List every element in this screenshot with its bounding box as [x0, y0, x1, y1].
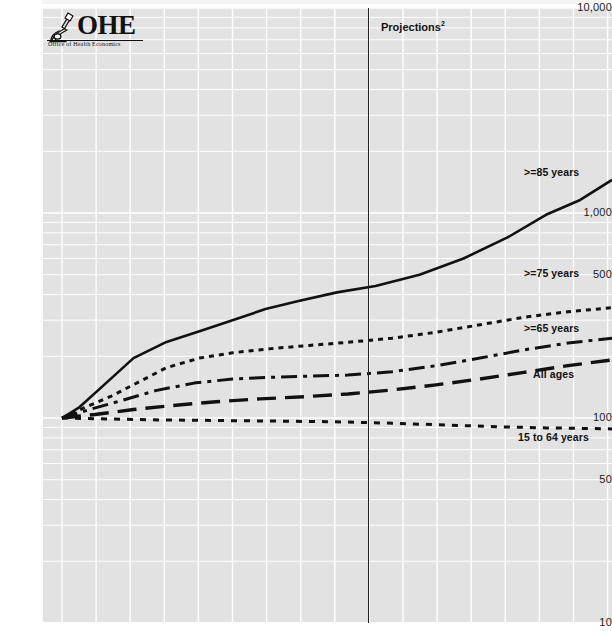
series-label-15-to-64-years: 15 to 64 years [518, 431, 589, 443]
gridlines [43, 8, 612, 623]
series-line-all-ages [62, 360, 612, 418]
projections-annotation: Projections2 [381, 20, 445, 33]
series-label--75-years: >=75 years [524, 267, 579, 279]
projection-divider-line [368, 8, 369, 623]
series-lines [43, 8, 612, 623]
y-axis-tick-label: 10 [571, 617, 612, 628]
y-axis-tick-label: 10,000 [571, 2, 612, 13]
series-line--65-years [62, 338, 612, 418]
ohe-wordmark: OHE [77, 12, 136, 39]
y-axis-tick-label: 100 [571, 412, 612, 423]
chart-root: 10,0001,0005001005010 Projections2 >=85 … [0, 0, 612, 631]
series-label--65-years: >=65 years [524, 322, 579, 334]
plot-area [43, 8, 612, 623]
y-axis-tick-label: 50 [571, 474, 612, 485]
series-line-15-to-64-years [62, 418, 612, 429]
y-axis-tick-label: 1,000 [571, 207, 612, 218]
projections-text: Projections [381, 21, 441, 33]
series-label-all-ages: All ages [533, 368, 574, 380]
ohe-logo: OHE Office of Health Economics [46, 11, 144, 51]
series-label--85-years: >=85 years [524, 166, 579, 178]
ohe-tagline: Office of Health Economics [48, 41, 121, 47]
top-edge-artifact [42, 0, 602, 4]
projections-footnote-marker: 2 [441, 20, 445, 27]
series-line--85-years [62, 180, 612, 418]
